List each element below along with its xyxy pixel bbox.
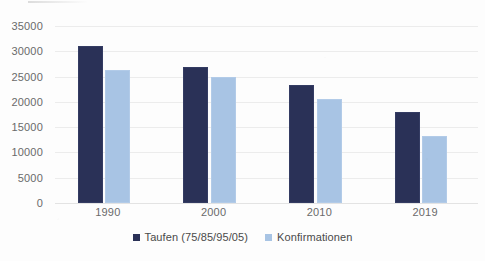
y-axis-tick-label: 0: [37, 197, 43, 209]
legend-swatch-icon: [265, 234, 272, 241]
bar-groups: [55, 26, 478, 203]
legend-label: Taufen (75/85/95/05): [145, 231, 249, 243]
y-axis-tick-label: 15000: [11, 121, 43, 133]
gridline: [55, 203, 478, 204]
y-axis-tick-label: 5000: [18, 172, 43, 184]
x-axis-tick-label: 2019: [372, 206, 478, 224]
bar-chart: 05000100001500020000250003000035000 1990…: [0, 0, 485, 261]
x-axis-tick-label: 2010: [267, 206, 373, 224]
bar: [395, 112, 420, 203]
legend-label: Konfirmationen: [277, 231, 352, 243]
bar: [289, 85, 314, 203]
y-axis-tick-label: 30000: [11, 45, 43, 57]
y-axis-tick-labels: 05000100001500020000250003000035000: [0, 26, 50, 203]
y-axis-tick-label: 35000: [11, 20, 43, 32]
y-axis-tick-label: 25000: [11, 71, 43, 83]
bar: [422, 136, 447, 203]
bar: [317, 99, 342, 203]
plot-area: [55, 26, 478, 203]
legend-item[interactable]: Konfirmationen: [265, 231, 352, 243]
bar: [105, 70, 130, 203]
bar-group: [161, 26, 267, 203]
chart-legend: Taufen (75/85/95/05)Konfirmationen: [0, 231, 485, 243]
legend-swatch-icon: [133, 234, 140, 241]
x-axis-tick-label: 1990: [55, 206, 161, 224]
y-axis-tick-label: 20000: [11, 96, 43, 108]
scan-artifact: [28, 1, 88, 3]
x-axis-tick-label: 2000: [161, 206, 267, 224]
y-axis-tick-label: 10000: [11, 146, 43, 158]
bar-group: [372, 26, 478, 203]
x-axis-tick-labels: 1990200020102019: [55, 206, 478, 224]
bar: [183, 67, 208, 203]
bar-group: [55, 26, 161, 203]
bar-group: [267, 26, 373, 203]
bar: [211, 77, 236, 203]
bar: [78, 46, 103, 203]
legend-item[interactable]: Taufen (75/85/95/05): [133, 231, 249, 243]
